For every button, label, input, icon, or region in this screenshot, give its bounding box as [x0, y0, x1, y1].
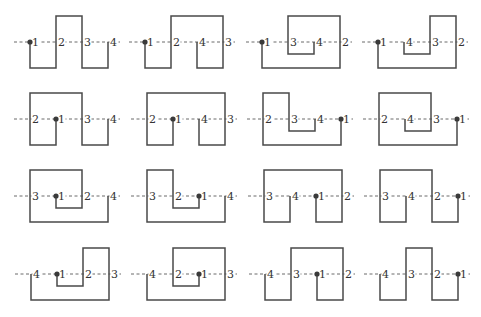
start-dot [454, 116, 459, 121]
crossing-label: 3 [382, 190, 389, 203]
crossing-label: 1 [460, 190, 467, 203]
crossing-label: 2 [175, 268, 182, 281]
meander-panel: 2431 [363, 93, 469, 145]
crossing-label: 1 [264, 36, 271, 49]
crossing-label: 2 [32, 113, 39, 126]
crossing-label: 1 [319, 268, 326, 281]
crossing-label: 1 [201, 190, 208, 203]
crossing-label: 2 [345, 268, 352, 281]
meander-panel: 1432 [362, 16, 468, 68]
meander-panel: 4213 [131, 248, 237, 300]
start-dot [313, 193, 318, 198]
meander-diagram-grid: 1234124313421432213421432341243131243214… [0, 0, 481, 317]
crossing-label: 4 [110, 36, 117, 49]
start-dot [375, 39, 380, 44]
start-dot [54, 271, 59, 276]
crossing-label: 3 [149, 190, 156, 203]
crossing-label: 2 [458, 36, 465, 49]
start-dot [259, 39, 264, 44]
start-dot [27, 39, 32, 44]
meander-panel: 2134 [14, 93, 120, 145]
crossing-label: 2 [265, 113, 272, 126]
crossing-label: 2 [344, 190, 351, 203]
crossing-label: 3 [291, 113, 298, 126]
crossing-label: 4 [149, 268, 156, 281]
crossing-label: 3 [227, 113, 234, 126]
start-dot [196, 193, 201, 198]
meander-panel: 4321 [364, 248, 470, 300]
crossing-label: 2 [173, 36, 180, 49]
crossing-label: 3 [433, 113, 440, 126]
meander-panel: 1234 [14, 16, 120, 68]
crossing-label: 1 [201, 268, 208, 281]
crossing-label: 4 [199, 36, 206, 49]
meander-panel: 3124 [14, 170, 120, 222]
crossing-label: 4 [382, 268, 389, 281]
crossing-label: 4 [227, 190, 234, 203]
start-dot [196, 271, 201, 276]
crossing-label: 1 [459, 113, 466, 126]
crossing-label: 2 [84, 190, 91, 203]
crossing-label: 1 [32, 36, 39, 49]
crossing-label: 2 [434, 190, 441, 203]
crossing-label: 2 [342, 36, 349, 49]
crossing-label: 3 [227, 268, 234, 281]
start-dot [338, 116, 343, 121]
start-dot [142, 39, 147, 44]
crossing-label: 1 [58, 190, 65, 203]
crossing-label: 2 [175, 190, 182, 203]
crossing-label: 4 [406, 36, 413, 49]
crossing-label: 1 [147, 36, 154, 49]
crossing-label: 1 [318, 190, 325, 203]
meander-panel: 3412 [248, 170, 354, 222]
crossing-label: 3 [32, 190, 39, 203]
crossing-label: 4 [316, 36, 323, 49]
meander-panel: 1342 [246, 16, 352, 68]
crossing-label: 3 [84, 113, 91, 126]
meander-panel: 3421 [364, 170, 470, 222]
crossing-label: 4 [110, 113, 117, 126]
meander-panel: 4123 [15, 248, 121, 300]
meander-panel: 4312 [249, 248, 355, 300]
crossing-label: 3 [408, 268, 415, 281]
crossing-label: 4 [33, 268, 40, 281]
crossing-label: 4 [201, 113, 208, 126]
crossing-label: 3 [290, 36, 297, 49]
crossing-label: 1 [343, 113, 350, 126]
crossing-label: 4 [292, 190, 299, 203]
crossing-label: 1 [460, 268, 467, 281]
meander-panel: 3214 [131, 170, 237, 222]
crossing-label: 4 [407, 113, 414, 126]
start-dot [170, 116, 175, 121]
crossing-label: 3 [432, 36, 439, 49]
crossing-label: 4 [408, 190, 415, 203]
meander-panel: 2341 [247, 93, 353, 145]
crossing-label: 1 [380, 36, 387, 49]
meander-panel: 2143 [131, 93, 237, 145]
crossing-label: 2 [434, 268, 441, 281]
crossing-label: 4 [317, 113, 324, 126]
crossing-label: 1 [175, 113, 182, 126]
start-dot [314, 271, 319, 276]
start-dot [455, 271, 460, 276]
crossing-label: 3 [111, 268, 118, 281]
crossing-label: 3 [293, 268, 300, 281]
crossing-label: 3 [266, 190, 273, 203]
crossing-label: 4 [110, 190, 117, 203]
crossing-label: 2 [381, 113, 388, 126]
crossing-label: 2 [58, 36, 65, 49]
crossing-label: 3 [225, 36, 232, 49]
crossing-label: 1 [58, 113, 65, 126]
crossing-label: 3 [84, 36, 91, 49]
crossing-label: 1 [59, 268, 66, 281]
meander-panel: 1243 [129, 16, 235, 68]
crossing-label: 4 [267, 268, 274, 281]
crossing-label: 2 [85, 268, 92, 281]
start-dot [53, 193, 58, 198]
crossing-label: 2 [149, 113, 156, 126]
start-dot [53, 116, 58, 121]
start-dot [455, 193, 460, 198]
